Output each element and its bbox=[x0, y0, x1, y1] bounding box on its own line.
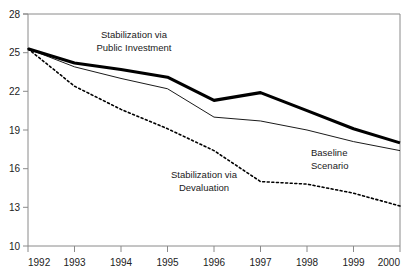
plot-frame bbox=[28, 14, 400, 246]
y-tick-label: 19 bbox=[9, 125, 21, 136]
y-tick-label: 22 bbox=[9, 86, 21, 97]
x-tick-label: 1997 bbox=[249, 257, 272, 268]
y-tick-label: 25 bbox=[9, 47, 21, 58]
x-axis-labels: 1992 1993 1994 1995 1996 1997 1998 1999 … bbox=[28, 257, 400, 268]
x-tick-label: 1998 bbox=[296, 257, 319, 268]
x-tick-label: 2000 bbox=[378, 257, 401, 268]
series-line-stabilization-via-public-investment bbox=[28, 49, 400, 143]
annotation-line-1: Stabilization via bbox=[171, 169, 238, 180]
annotation-devaluation: Stabilization via Devaluation bbox=[171, 169, 238, 193]
line-chart: 28 25 22 19 16 13 10 1992 1993 1994 1995… bbox=[0, 0, 420, 280]
annotation-line-2: Scenario bbox=[311, 160, 349, 171]
x-tick-label: 1994 bbox=[110, 257, 133, 268]
annotation-line-2: Public Investment bbox=[97, 42, 172, 53]
annotation-baseline: Baseline Scenario bbox=[311, 147, 349, 171]
x-tick-label: 1996 bbox=[203, 257, 226, 268]
y-tick-label: 10 bbox=[9, 241, 21, 252]
y-tick-label: 16 bbox=[9, 163, 21, 174]
chart-canvas: 28 25 22 19 16 13 10 1992 1993 1994 1995… bbox=[0, 0, 420, 280]
x-tick-label: 1999 bbox=[342, 257, 365, 268]
y-axis-labels: 28 25 22 19 16 13 10 bbox=[9, 9, 21, 252]
y-tick-label: 13 bbox=[9, 202, 21, 213]
x-axis-ticks bbox=[28, 246, 400, 252]
x-tick-label: 1993 bbox=[63, 257, 86, 268]
annotation-line-1: Baseline bbox=[311, 147, 347, 158]
x-tick-label: 1992 bbox=[28, 257, 51, 268]
annotation-line-2: Devaluation bbox=[179, 182, 229, 193]
x-tick-label: 1995 bbox=[156, 257, 179, 268]
annotation-line-1: Stabilization via bbox=[101, 29, 168, 40]
annotation-public-investment: Stabilization via Public Investment bbox=[97, 29, 172, 53]
y-tick-label: 28 bbox=[9, 9, 21, 20]
